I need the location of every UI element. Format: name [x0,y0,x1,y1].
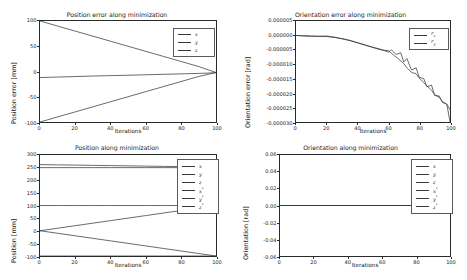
legend-label: y* [199,196,204,202]
y-tick: 0 [0,69,37,75]
y-tick: 50 [0,43,37,49]
figure-canvas: Position error along minimization Positi… [0,0,467,280]
legend-label: z [433,180,436,185]
legend: xyz [173,28,215,57]
y-tick: -0.000030 [234,120,293,126]
y-tick-mark [37,231,39,232]
x-tick-mark [357,123,358,125]
x-axis-label: Iterations [39,128,217,134]
legend-label: z [199,180,202,185]
legend-item: y [176,39,212,46]
y-tick: 50 [0,215,37,221]
legend-label: z [195,48,198,53]
y-tick: 0.06 [234,151,277,157]
legend-label: x* [199,188,204,194]
y-tick: -50 [0,241,37,247]
legend-item: x [180,163,216,170]
y-tick: 100 [0,203,37,209]
legend-swatch [416,174,429,175]
x-tick-mark [75,257,76,259]
legend-swatch [182,190,195,191]
legend-label: y [199,172,202,177]
y-tick: -0.000010 [234,61,293,67]
x-axis-label: Iterations [39,262,217,268]
y-tick: -100 [0,254,37,260]
y-tick: -0.000015 [234,76,293,82]
y-tick: 200 [0,177,37,183]
y-tick-mark [277,223,279,224]
y-tick-mark [37,180,39,181]
x-tick-mark [146,123,147,125]
legend-swatch [182,206,195,207]
series-line [40,231,216,256]
y-tick: -0.000025 [234,105,293,111]
y-axis-label: Orientation [rad] [242,206,250,260]
x-tick-mark [75,123,76,125]
series-line [40,73,216,78]
y-tick: -0.000005 [234,46,293,52]
x-tick-mark [217,123,218,125]
y-tick-mark [277,240,279,241]
series-line [40,73,216,122]
panel-orientation-error: Orientation error along minimization Ori… [234,8,467,140]
y-tick-mark [293,94,295,95]
legend-swatch [414,43,427,44]
y-tick: -0.06 [234,254,277,260]
y-tick-mark [37,154,39,155]
legend-item: x [176,31,212,38]
panel-title: Position along minimization [0,144,234,151]
y-tick-mark [293,49,295,50]
legend-swatch [182,166,195,167]
legend-item: z [180,179,216,186]
legend-item: x* [414,187,450,194]
y-tick: -50 [0,94,37,100]
y-tick-mark [37,244,39,245]
legend-label: z* [199,204,203,210]
y-tick-mark [37,218,39,219]
y-tick-mark [293,108,295,109]
x-tick-mark [217,257,218,259]
legend-swatch [178,42,191,43]
legend-item: y [180,171,216,178]
x-axis-label: Iterations [279,262,451,268]
panel-title: Orientation along minimization [234,144,467,151]
legend: xyzx*y*z* [411,159,453,214]
legend: xyzx*y*z* [177,159,219,214]
x-tick-mark [420,123,421,125]
legend-swatch [416,182,429,183]
y-tick: -0.04 [234,237,277,243]
y-tick-mark [37,97,39,98]
x-tick-mark [389,123,390,125]
legend-swatch [178,34,191,35]
legend-item: z* [180,203,216,210]
legend-item: x* [180,187,216,194]
y-tick: -100 [0,120,37,126]
y-tick: 0.000005 [234,17,293,23]
x-tick-mark [417,257,418,259]
y-tick-mark [277,171,279,172]
legend-label: y* [433,196,438,202]
panel-position: Position along minimization Position [mm… [0,143,234,280]
y-tick-mark [37,167,39,168]
legend-swatch [182,198,195,199]
legend-item: z [414,179,450,186]
y-tick: 100 [0,17,37,23]
y-tick-mark [277,154,279,155]
x-tick-mark [348,257,349,259]
x-tick-mark [110,123,111,125]
x-tick-mark [326,123,327,125]
legend-item: z [176,47,212,54]
legend-item: rx [412,32,446,39]
y-tick-mark [37,46,39,47]
legend-label: y [433,172,436,177]
legend-swatch [416,166,429,167]
y-tick-mark [293,64,295,65]
x-tick-mark [313,257,314,259]
y-tick: 150 [0,190,37,196]
y-tick-mark [277,206,279,207]
y-tick-mark [293,35,295,36]
legend-item: ry [412,40,446,47]
y-tick-mark [293,79,295,80]
legend-label: z* [433,204,437,210]
x-tick-mark [279,257,280,259]
